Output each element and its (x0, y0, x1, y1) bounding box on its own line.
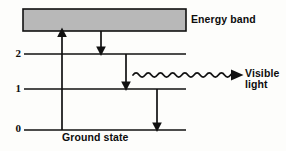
excitation-arrow (57, 28, 67, 131)
band-to-level2-arrow (96, 31, 106, 56)
level-label-0: 0 (9, 122, 21, 134)
ground-state-label: Ground state (62, 132, 129, 143)
energy-band-label: Energy band (191, 14, 256, 25)
level2-to-level1-arrow (121, 54, 131, 91)
energy-level-diagram: Energy band Visiblelight Ground state 2 … (0, 0, 286, 151)
visible-light-wave (133, 70, 244, 81)
visible-light-arrowhead (231, 70, 244, 81)
energy-band-rect (23, 9, 186, 31)
level1-to-ground-arrow (152, 89, 162, 132)
visible-light-label-line2: light (245, 79, 279, 90)
level-label-2: 2 (9, 47, 21, 59)
visible-light-label: Visiblelight (245, 68, 279, 91)
level-label-1: 1 (9, 82, 21, 94)
